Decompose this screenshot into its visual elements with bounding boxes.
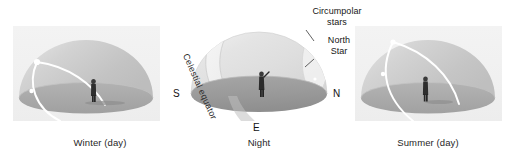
caption-summer: Summer (day) (368, 137, 488, 149)
winter-scene (13, 26, 160, 121)
compass-east: E (253, 122, 260, 133)
sunrise-point (34, 59, 40, 65)
circumpolar-stars-line1: Circumpolar (297, 6, 377, 17)
panel-summer (355, 26, 502, 121)
compass-south: S (173, 88, 180, 99)
sun-midpoint (29, 89, 33, 93)
circumpolar-stars-label: Circumpolar stars (297, 6, 377, 27)
sun-midpoint (381, 72, 385, 76)
compass-north: N (333, 88, 340, 99)
north-star-marker (313, 77, 316, 80)
panel-night: S N E Celestial equator (181, 22, 337, 126)
observer-shadow (425, 100, 453, 104)
caption-winter: Winter (day) (40, 137, 160, 149)
celestial-sphere-figure: Winter (day) (0, 0, 510, 162)
observer-shadow (85, 101, 125, 105)
panel-winter (13, 26, 160, 121)
summer-scene (355, 26, 502, 121)
sunrise-point (390, 39, 395, 44)
caption-night: Night (199, 137, 319, 149)
